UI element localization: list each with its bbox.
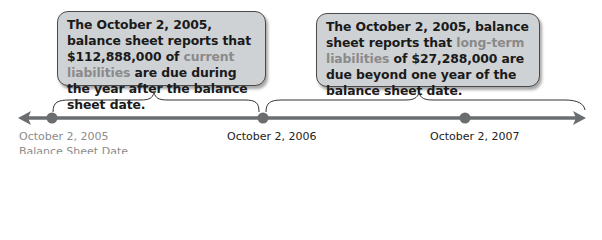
brace-current	[53, 93, 259, 112]
date-label-line: October 2, 2005	[19, 129, 128, 144]
timeline-point-2006	[258, 113, 269, 124]
date-label-2005: October 2, 2005 Balance Sheet Date	[19, 129, 128, 154]
brace-long-term	[266, 93, 585, 112]
date-label-2007: October 2, 2007	[430, 129, 520, 144]
timeline-point-2005	[47, 113, 58, 124]
timeline-point-2007	[460, 113, 471, 124]
date-label-2006: October 2, 2006	[227, 129, 317, 144]
date-label-line: Balance Sheet Date	[19, 144, 128, 154]
